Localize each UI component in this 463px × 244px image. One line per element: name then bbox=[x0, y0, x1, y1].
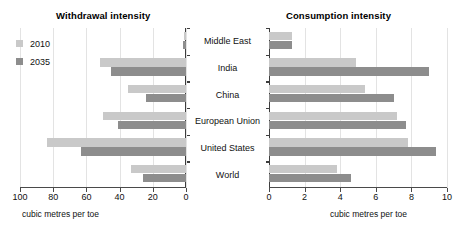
axis-tick-label: 6 bbox=[373, 192, 378, 202]
legend-label-2010: 2010 bbox=[30, 39, 50, 49]
category-label: World bbox=[186, 161, 269, 188]
bar-2010 bbox=[269, 85, 365, 94]
bar-group bbox=[269, 81, 447, 108]
bar-2035 bbox=[146, 94, 186, 103]
category-tick bbox=[266, 55, 269, 56]
withdrawal-tick-labels: 100806040200 bbox=[20, 192, 186, 206]
bar-group bbox=[20, 81, 186, 108]
category-tick bbox=[266, 161, 269, 162]
legend-item-2035: 2035 bbox=[16, 54, 50, 69]
axis-tick-label: 60 bbox=[81, 192, 91, 202]
legend-swatch-2035-icon bbox=[16, 58, 23, 65]
consumption-axis-caption: cubic metres per toe bbox=[330, 209, 407, 219]
legend-swatch-2010-icon bbox=[16, 40, 23, 47]
withdrawal-panel-title: Withdrawal intensity bbox=[56, 10, 150, 21]
axis-tick-label: 0 bbox=[266, 192, 271, 202]
axis-tick-label: 20 bbox=[148, 192, 158, 202]
bar-2010 bbox=[269, 138, 408, 147]
bar-group bbox=[269, 55, 447, 82]
bar-2035 bbox=[269, 147, 436, 156]
bar-2035 bbox=[269, 41, 292, 50]
bar-2010 bbox=[269, 58, 356, 67]
bar-2035 bbox=[118, 121, 186, 130]
withdrawal-axis-caption: cubic metres per toe bbox=[22, 209, 99, 219]
consumption-tick-labels: 0246810 bbox=[269, 192, 447, 206]
category-axis-labels: Middle EastIndiaChinaEuropean UnionUnite… bbox=[186, 28, 269, 188]
consumption-plot-area bbox=[269, 28, 447, 188]
bar-group bbox=[20, 135, 186, 162]
legend-item-2010: 2010 bbox=[16, 36, 50, 51]
bar-2010 bbox=[269, 32, 292, 41]
bar-2010 bbox=[131, 165, 186, 174]
category-label: China bbox=[186, 81, 269, 108]
axis-tick-label: 8 bbox=[409, 192, 414, 202]
bar-2010 bbox=[269, 165, 337, 174]
category-tick bbox=[266, 28, 269, 29]
chart-figure: Withdrawal intensity Consumption intensi… bbox=[0, 0, 463, 244]
category-label: Middle East bbox=[186, 28, 269, 55]
bar-2035 bbox=[269, 94, 394, 103]
bar-2010 bbox=[269, 112, 397, 121]
category-tick bbox=[266, 81, 269, 82]
gridline bbox=[447, 28, 448, 188]
bar-2035 bbox=[269, 121, 406, 130]
legend-label-2035: 2035 bbox=[30, 57, 50, 67]
consumption-panel-title: Consumption intensity bbox=[286, 10, 391, 21]
axis-tick-label: 0 bbox=[183, 192, 188, 202]
category-label: India bbox=[186, 55, 269, 82]
chart-legend: 2010 2035 bbox=[16, 36, 50, 72]
bar-group bbox=[269, 161, 447, 188]
bar-2010 bbox=[100, 58, 186, 67]
bar-2010 bbox=[103, 112, 186, 121]
axis-tick-label: 10 bbox=[442, 192, 452, 202]
category-label: European Union bbox=[186, 108, 269, 135]
bar-group bbox=[269, 108, 447, 135]
bar-group bbox=[20, 161, 186, 188]
axis-tick-label: 40 bbox=[115, 192, 125, 202]
bar-2010 bbox=[128, 85, 186, 94]
bar-2035 bbox=[143, 174, 186, 183]
axis-tick-label: 80 bbox=[48, 192, 58, 202]
bar-2010 bbox=[47, 138, 186, 147]
bar-2035 bbox=[269, 174, 351, 183]
bar-group bbox=[269, 28, 447, 55]
axis-tick-label: 100 bbox=[12, 192, 27, 202]
bar-2035 bbox=[269, 67, 429, 76]
bar-group bbox=[269, 135, 447, 162]
category-label: United States bbox=[186, 135, 269, 162]
bar-2035 bbox=[111, 67, 186, 76]
axis-tick-label: 4 bbox=[338, 192, 343, 202]
bar-group bbox=[20, 108, 186, 135]
category-tick bbox=[266, 135, 269, 136]
axis-tick-label: 2 bbox=[302, 192, 307, 202]
category-tick bbox=[266, 108, 269, 109]
bar-2035 bbox=[81, 147, 186, 156]
